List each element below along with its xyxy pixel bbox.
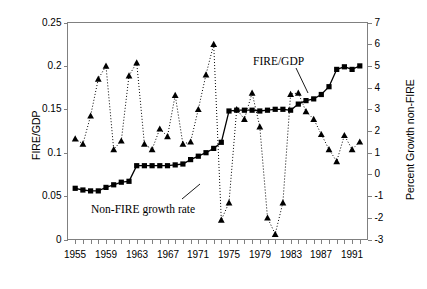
data-point-triangle (356, 138, 363, 144)
data-point-square (226, 108, 231, 113)
data-point-square (80, 187, 85, 192)
chart-figure: 00.050.10.150.20.25 -3-2-101234567 19551… (0, 0, 427, 289)
data-point-triangle (110, 146, 117, 152)
data-point-triangle (87, 112, 94, 118)
data-point-square (173, 162, 178, 167)
data-point-square (280, 107, 285, 112)
data-point-square (103, 185, 108, 190)
data-point-triangle (218, 217, 225, 223)
data-point-square (111, 182, 116, 187)
data-point-triangle (156, 125, 163, 131)
data-point-triangle (203, 71, 210, 77)
data-point-triangle (95, 76, 102, 82)
data-point-square (203, 150, 208, 155)
data-point-square (165, 163, 170, 168)
data-point-square (334, 67, 339, 72)
data-point-triangle (333, 158, 340, 164)
data-point-triangle (164, 133, 171, 139)
data-point-square (326, 84, 331, 89)
data-point-square (296, 102, 301, 107)
data-point-triangle (195, 106, 202, 112)
data-point-triangle (187, 138, 194, 144)
data-point-square (303, 98, 308, 103)
data-point-triangle (326, 146, 333, 152)
plot-area (0, 0, 427, 289)
data-point-square (126, 179, 131, 184)
data-point-triangle (103, 63, 110, 69)
data-point-square (257, 108, 262, 113)
data-point-triangle (172, 92, 179, 98)
data-point-square (288, 108, 293, 113)
data-point-square (188, 157, 193, 162)
data-point-triangle (256, 123, 263, 129)
data-point-triangle (80, 141, 87, 147)
annotation-leader-fire-gdp (296, 68, 308, 93)
data-point-square (96, 188, 101, 193)
data-point-square (119, 180, 124, 185)
data-point-square (350, 67, 355, 72)
data-point-square (157, 163, 162, 168)
data-point-square (342, 64, 347, 69)
data-point-triangle (210, 41, 217, 47)
data-point-square (250, 108, 255, 113)
data-point-square (357, 63, 362, 68)
annotation-fire-gdp: FIRE/GDP (253, 55, 304, 67)
data-point-triangle (303, 108, 310, 114)
data-point-square (273, 107, 278, 112)
data-point-triangle (264, 214, 271, 220)
data-point-triangle (72, 135, 79, 141)
data-point-triangle (272, 231, 279, 237)
data-point-square (88, 188, 93, 193)
data-point-triangle (133, 59, 140, 65)
data-point-triangle (226, 199, 233, 205)
data-point-square (196, 154, 201, 159)
annotation-leader-non-fire (182, 184, 200, 199)
data-point-square (211, 146, 216, 151)
data-point-triangle (318, 131, 325, 137)
data-point-triangle (141, 141, 148, 147)
data-point-square (142, 163, 147, 168)
data-point-square (311, 96, 316, 101)
data-point-triangle (118, 137, 125, 143)
data-point-square (134, 163, 139, 168)
data-point-square (219, 140, 224, 145)
data-point-square (180, 161, 185, 166)
data-point-triangle (280, 199, 287, 205)
data-point-square (319, 92, 324, 97)
data-point-triangle (249, 90, 256, 96)
annotation-non-fire: Non-FIRE growth rate (91, 203, 195, 215)
data-point-square (150, 163, 155, 168)
data-point-triangle (180, 141, 187, 147)
data-point-triangle (287, 91, 294, 97)
data-point-triangle (149, 146, 156, 152)
data-point-square (73, 186, 78, 191)
data-point-triangle (126, 72, 133, 78)
data-point-triangle (341, 132, 348, 138)
data-point-square (242, 108, 247, 113)
data-point-square (265, 108, 270, 113)
data-point-triangle (295, 90, 302, 96)
